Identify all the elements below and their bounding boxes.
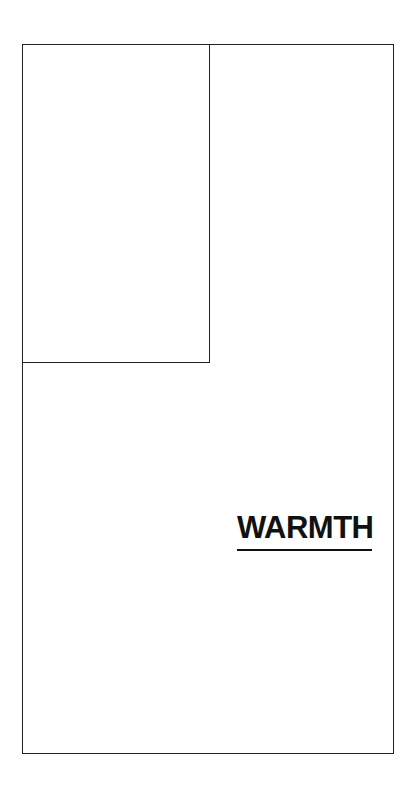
warmth-label: WARMTH — [237, 511, 373, 545]
label-underline — [237, 549, 372, 551]
inner-panel — [22, 44, 210, 363]
